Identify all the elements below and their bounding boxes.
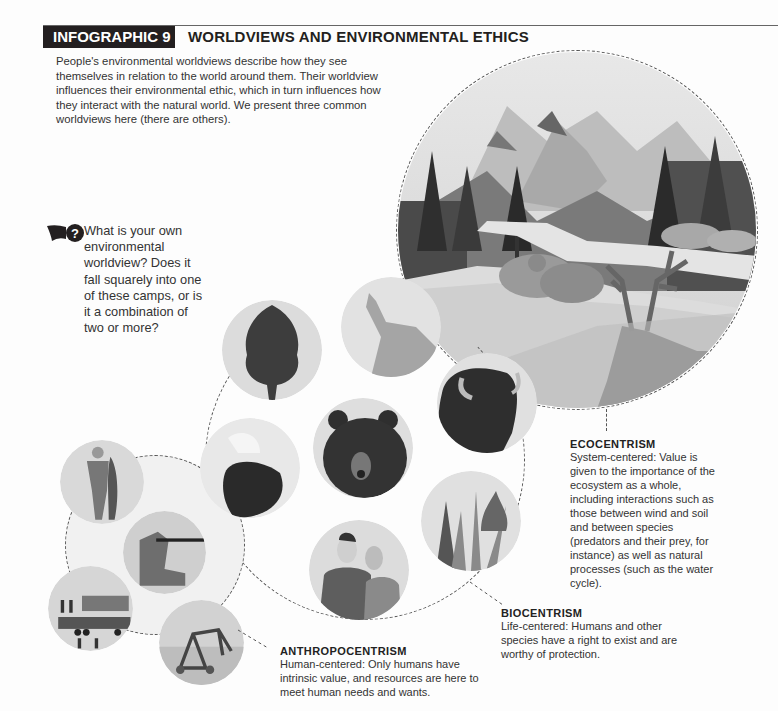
infographic-label: INFOGRAPHIC 9	[43, 26, 175, 48]
anthropocentrism-description: Human-centered: Only humans have intrins…	[280, 657, 480, 699]
ecocentrism-label: ECOCENTRISM System-centered: Value is gi…	[570, 438, 720, 590]
page-title: WORLDVIEWS AND ENVIRONMENTAL ETHICS	[188, 26, 529, 48]
intro-paragraph: People's environmental worldviews descri…	[56, 54, 386, 127]
ecocentrism-connector	[606, 409, 607, 431]
ecocentrism-heading: ECOCENTRISM	[570, 438, 720, 450]
grizzly-bear-image	[313, 398, 413, 498]
biocentrism-heading: BIOCENTRISM	[501, 607, 686, 619]
ecocentrism-description: System-centered: Value is given to the i…	[570, 450, 720, 590]
anthropocentrism-connector	[236, 628, 276, 653]
tree-image	[222, 300, 322, 400]
reflection-question: What is your own environmental worldview…	[84, 223, 209, 336]
biocentrism-description: Life-centered: Humans and other species …	[501, 619, 686, 661]
hunter-image	[123, 511, 206, 594]
plants-image	[421, 471, 521, 571]
bald-eagle-image	[200, 418, 300, 518]
anthropocentrism-heading: ANTHROPOCENTRISM	[280, 645, 480, 657]
svg-text:?: ?	[71, 226, 79, 241]
biocentrism-connector	[468, 580, 508, 610]
couple-image	[309, 520, 409, 620]
logging-truck-image	[48, 566, 133, 651]
bison-image	[437, 353, 537, 453]
biocentrism-label: BIOCENTRISM Life-centered: Humans and ot…	[501, 607, 686, 661]
howling-wolf-image	[341, 277, 441, 377]
irrigation-sprinkler-image	[159, 600, 244, 685]
anthropocentrism-label: ANTHROPOCENTRISM Human-centered: Only hu…	[280, 645, 480, 699]
question-bubble-icon: ?	[46, 223, 88, 243]
fisherman-image	[60, 440, 144, 524]
